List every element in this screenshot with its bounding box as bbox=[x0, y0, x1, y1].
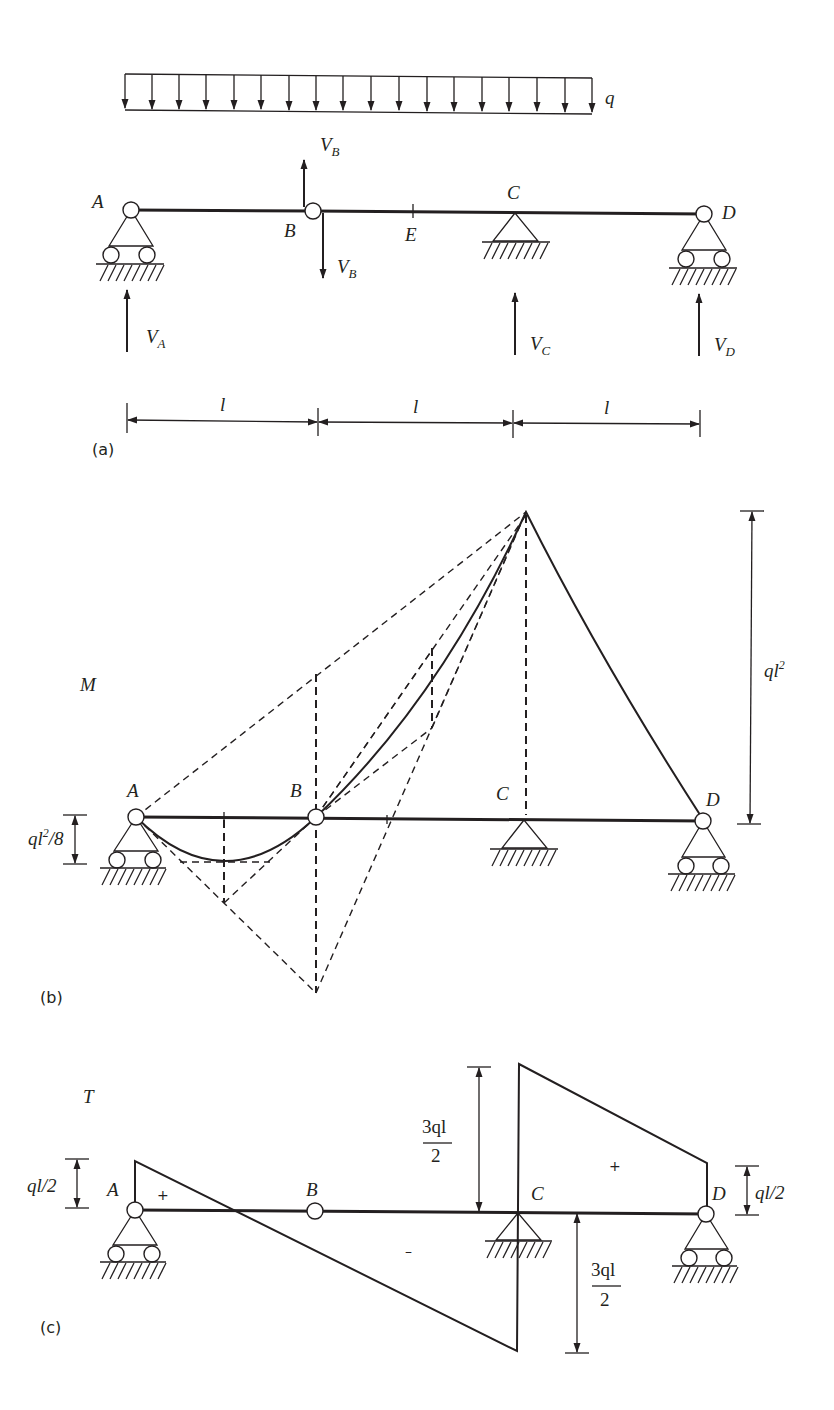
roller-support-a bbox=[96, 202, 164, 281]
panel-b-moment: M bbox=[28, 511, 785, 1007]
hinge-a bbox=[123, 202, 139, 218]
roller-support-d bbox=[672, 1206, 738, 1283]
moment-max-label: ql2 bbox=[764, 658, 785, 681]
internal-hinge-b bbox=[307, 1203, 323, 1219]
load-label-q: q bbox=[605, 87, 615, 108]
label-a: A bbox=[105, 1179, 119, 1200]
hinge-d bbox=[696, 206, 712, 222]
span-label-bc: l bbox=[413, 396, 418, 417]
shear-diagram-label: T bbox=[83, 1086, 95, 1107]
pin-support-c bbox=[490, 820, 558, 866]
dimension-ql2: ql2 bbox=[737, 511, 785, 824]
label-c: C bbox=[496, 783, 509, 804]
reaction-vc: VC bbox=[530, 333, 551, 358]
beam-segment-bd bbox=[313, 211, 705, 214]
reaction-va: VA bbox=[146, 326, 166, 351]
beam-diagram-figure: q A B VB VB E bbox=[0, 0, 834, 1410]
distributed-load-q: q bbox=[125, 74, 615, 114]
reaction-vb-down: VB bbox=[337, 256, 357, 281]
shear-label-c-left-num: 3ql bbox=[422, 1116, 446, 1137]
shear-diagram-outline bbox=[135, 1064, 707, 1351]
internal-hinge-b bbox=[305, 203, 321, 219]
pin-support-c bbox=[482, 213, 550, 259]
dimension-3ql-over-2-lower: 3ql 2 bbox=[565, 1214, 621, 1353]
label-a: A bbox=[90, 191, 104, 212]
shear-beam bbox=[135, 1210, 707, 1214]
shear-label-c-left-den: 2 bbox=[431, 1145, 441, 1166]
shear-label-a: ql/2 bbox=[27, 1175, 57, 1196]
roller-support-a bbox=[100, 1202, 166, 1279]
moment-sag-label: ql2/8 bbox=[28, 826, 64, 849]
panel-a-loading: q A B VB VB E bbox=[90, 74, 737, 459]
sign-plus-cd: + bbox=[609, 1158, 621, 1174]
label-d: D bbox=[721, 202, 736, 223]
shear-label-c-right-num: 3ql bbox=[591, 1259, 615, 1280]
reaction-vd: VD bbox=[714, 334, 736, 359]
label-b: B bbox=[284, 220, 296, 241]
reaction-vb-up: VB bbox=[320, 134, 340, 159]
label-d: D bbox=[705, 789, 720, 810]
panel-c-shear: T + – + A B bbox=[27, 1064, 785, 1353]
dimension-ql-over-2-d: ql/2 bbox=[735, 1166, 785, 1215]
moment-beam bbox=[136, 817, 704, 821]
caption-b: (b) bbox=[40, 988, 63, 1007]
roller-support-a bbox=[100, 809, 166, 885]
label-b: B bbox=[290, 780, 302, 801]
beam-segment-ab bbox=[131, 210, 313, 211]
label-e: E bbox=[404, 224, 417, 245]
sign-minus: – bbox=[405, 1243, 412, 1259]
caption-a: (a) bbox=[92, 440, 114, 459]
label-b: B bbox=[306, 1179, 318, 1200]
label-a: A bbox=[125, 780, 139, 801]
roller-support-d bbox=[668, 813, 735, 891]
caption-c: (c) bbox=[40, 1318, 61, 1337]
dimension-ql-over-2-a: ql/2 bbox=[27, 1159, 89, 1208]
construction-lines bbox=[136, 512, 526, 993]
span-label-cd: l bbox=[604, 397, 609, 418]
dimension-ql2-over-8: ql2/8 bbox=[28, 815, 87, 864]
shear-label-d: ql/2 bbox=[755, 1182, 785, 1203]
label-d: D bbox=[711, 1183, 726, 1204]
moment-diagram-label: M bbox=[79, 674, 97, 695]
moment-curve bbox=[136, 512, 704, 861]
label-c: C bbox=[531, 1183, 544, 1204]
span-dimensions: l l l bbox=[127, 394, 700, 438]
label-c: C bbox=[507, 182, 520, 203]
sign-plus-a: + bbox=[157, 1187, 169, 1203]
dimension-3ql-over-2-upper: 3ql 2 bbox=[422, 1067, 491, 1211]
shear-label-c-right-den: 2 bbox=[600, 1289, 610, 1310]
internal-hinge-b bbox=[308, 809, 324, 825]
span-label-ab: l bbox=[220, 394, 225, 415]
